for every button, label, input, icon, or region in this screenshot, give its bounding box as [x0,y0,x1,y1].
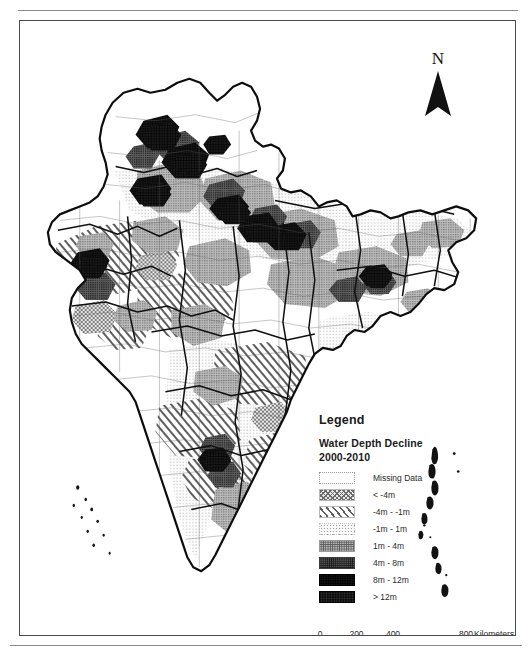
legend-row: > 12m [319,588,454,605]
north-arrow: N [416,49,460,123]
legend-row-label: -1m - 1m [373,524,407,534]
top-rule [18,10,518,11]
bottom-rule [10,645,522,646]
north-arrow-label: N [416,49,460,68]
swatch-neg1m-1m [319,523,355,535]
swatch-8m-12m [319,574,355,586]
map-neatline-frame: N Legend Water Depth Decline 2000-2010 M… [19,20,516,636]
swatch-4m-8m [319,557,355,569]
legend-row-label: > 12m [373,592,397,602]
scale-tick-label: 200 [349,629,363,636]
legend-items: Missing Data< -4m-4m - -1m-1m - 1m1m - 4… [319,469,454,605]
swatch-1m-4m [319,540,355,552]
legend-row-label: 1m - 4m [373,541,404,551]
legend-row: < -4m [319,486,454,503]
legend-row-label: 8m - 12m [373,575,409,585]
scale-bar-labels: 0200400800Kilometers [319,629,499,636]
legend-row: 4m - 8m [319,554,454,571]
legend-row: -4m - -1m [319,503,454,520]
swatch-gt-12m [319,591,355,603]
page-root: N Legend Water Depth Decline 2000-2010 M… [0,0,529,653]
legend-row: 8m - 12m [319,571,454,588]
scale-tick-label: 0 [318,629,323,636]
legend-title: Legend [319,413,454,427]
scale-tick-label: 400 [386,629,400,636]
scale-tick-label: 800 [459,629,473,636]
north-arrow-icon [423,69,453,119]
legend-row: 1m - 4m [319,537,454,554]
legend-row-label: Missing Data [373,473,422,483]
lakshadweep-islands [73,485,111,554]
scale-bar: 0200400800Kilometers [319,629,499,636]
legend: Legend Water Depth Decline 2000-2010 Mis… [319,413,454,605]
swatch-lt-neg4m [319,489,355,501]
legend-subtitle-line2: 2000-2010 [319,451,454,463]
legend-row: Missing Data [319,469,454,486]
legend-row-label: < -4m [373,490,395,500]
legend-row-label: -4m - -1m [373,507,410,517]
legend-row: -1m - 1m [319,520,454,537]
legend-row-label: 4m - 8m [373,558,404,568]
scale-unit-label: Kilometers [474,629,514,636]
swatch-missing-data [319,472,355,484]
swatch-neg4m-neg1m [319,506,355,518]
legend-subtitle-line1: Water Depth Decline [319,437,454,449]
